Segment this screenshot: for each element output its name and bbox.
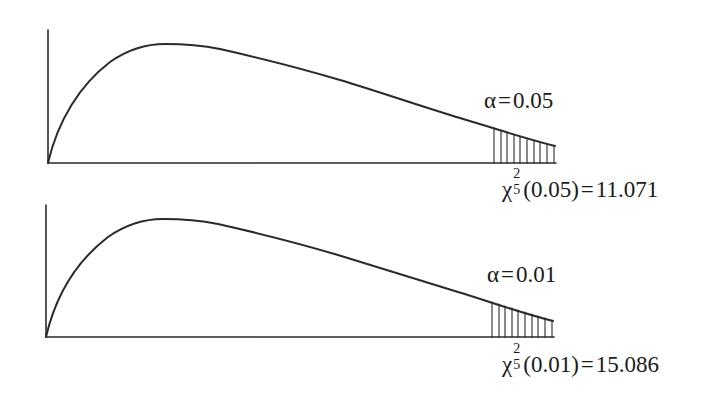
critical-value: 11.071 — [596, 177, 658, 202]
bottom-panel — [46, 205, 554, 337]
equals-sign: = — [501, 262, 514, 287]
chi-symbol: χ — [502, 352, 512, 377]
chi-superscript: 2 — [513, 342, 520, 356]
top-critical-value-label: χ25(0.05)=11.071 — [502, 177, 658, 201]
bottom-alpha-label: α=0.01 — [487, 263, 556, 286]
top-density-curve — [48, 44, 555, 163]
alpha-value: 0.05 — [513, 88, 553, 113]
alpha-symbol: α — [484, 88, 496, 113]
bottom-rejection-hatch — [492, 302, 552, 337]
equals-sign: = — [581, 352, 594, 377]
critical-arg: (0.01) — [523, 352, 579, 377]
top-panel — [48, 30, 556, 163]
top-rejection-hatch — [494, 128, 554, 163]
chi-superscript: 2 — [513, 167, 520, 181]
chi-subscript: 5 — [513, 183, 520, 197]
alpha-value: 0.01 — [516, 262, 556, 287]
critical-arg: (0.05) — [523, 177, 579, 202]
chi-symbol: χ — [502, 177, 512, 202]
top-alpha-label: α=0.05 — [484, 89, 553, 112]
bottom-critical-value-label: χ25(0.01)=15.086 — [502, 352, 659, 376]
diagram-canvas — [0, 0, 722, 406]
bottom-density-curve — [46, 219, 553, 337]
alpha-symbol: α — [487, 262, 499, 287]
equals-sign: = — [498, 88, 511, 113]
chi-sup-sub: 25 — [512, 177, 523, 197]
chi-subscript: 5 — [513, 358, 520, 372]
equals-sign: = — [581, 177, 594, 202]
chi-sup-sub: 25 — [512, 352, 523, 372]
critical-value: 15.086 — [596, 352, 659, 377]
